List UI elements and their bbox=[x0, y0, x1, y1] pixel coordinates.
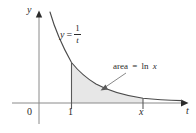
curve-equation-lhs: y bbox=[60, 30, 64, 40]
origin-label: 0 bbox=[27, 107, 32, 117]
curve-equation-row: y = 1 t bbox=[60, 24, 81, 45]
x-tick-label-1: 1 bbox=[68, 107, 73, 117]
curve-equation-fraction: 1 t bbox=[74, 24, 81, 45]
area-annotation-equals: = bbox=[132, 61, 137, 71]
y-axis-label: y bbox=[27, 5, 31, 15]
area-annotation-x: x bbox=[153, 61, 157, 71]
x-tick-label-x: x bbox=[139, 107, 143, 117]
figure-container: y t 0 1 x y = 1 t area = ln x bbox=[0, 0, 196, 133]
fraction-denominator: t bbox=[75, 36, 80, 45]
curve-equation-label: y = 1 t bbox=[60, 24, 81, 45]
y-axis-arrowhead bbox=[36, 11, 42, 18]
curve-equation-equals: = bbox=[66, 30, 72, 40]
area-annotation-word: area bbox=[113, 61, 128, 71]
fraction-numerator: 1 bbox=[74, 24, 81, 33]
area-label-leader-line bbox=[104, 73, 126, 88]
area-annotation-ln: ln bbox=[142, 61, 149, 71]
t-axis-label: t bbox=[186, 106, 189, 116]
area-annotation-label: area = ln x bbox=[113, 62, 157, 71]
